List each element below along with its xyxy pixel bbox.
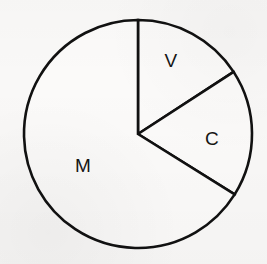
pie-slice-label-v: V xyxy=(165,50,178,71)
pie-slice-label-c: C xyxy=(205,128,219,149)
pie-slice-label-m: M xyxy=(75,155,91,176)
pie-chart-figure: V C M xyxy=(0,0,267,264)
pie-chart-svg: V C M xyxy=(0,0,267,264)
